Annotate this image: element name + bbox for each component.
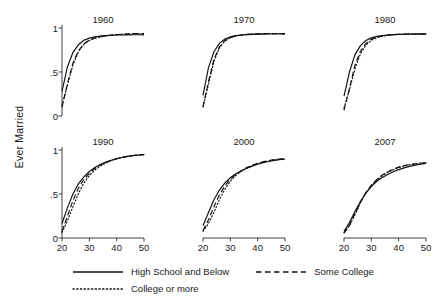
series-line-dashed (344, 163, 426, 233)
x-tick-label: 30 (225, 242, 236, 253)
legend-label-college-or-more: College or more (131, 283, 199, 294)
x-tick-label: 20 (198, 242, 209, 253)
panel-title-2007: 2007 (344, 136, 426, 147)
legend-item-some-college: Some College (255, 266, 374, 277)
y-tick-label: .5 (50, 189, 58, 200)
plot-area-1980 (344, 28, 426, 116)
panel-title-2000: 2000 (203, 136, 285, 147)
figure: Ever Married 19600.511970198019900.51203… (0, 0, 438, 307)
x-tick-label: 30 (366, 242, 377, 253)
plot-area-2007: 20304050 (344, 150, 426, 238)
x-tick-label: 40 (111, 242, 122, 253)
series-line-solid (203, 34, 285, 95)
chart-legend: High School and Below Some College Colle… (0, 266, 438, 294)
series-line-dotted (344, 163, 426, 233)
series-line-dotted (203, 159, 285, 231)
legend-swatch-solid-icon (72, 267, 124, 277)
panel-title-1960: 1960 (62, 14, 144, 25)
x-tick-label: 20 (57, 242, 68, 253)
series-line-dashed (62, 33, 144, 107)
legend-label-some-college: Some College (314, 266, 374, 277)
series-line-dashed (203, 33, 285, 106)
legend-item-high-school-and-below: High School and Below (72, 266, 229, 277)
panel-title-1980: 1980 (344, 14, 426, 25)
series-line-dashed (344, 34, 426, 110)
plot-area-1960: 0.51 (62, 28, 144, 116)
series-line-dotted (203, 34, 285, 108)
plot-area-2000: 20304050 (203, 150, 285, 238)
legend-item-college-or-more: College or more (72, 283, 199, 294)
panel-2000: 200020304050 (203, 150, 285, 238)
y-tick-label: .5 (50, 67, 58, 78)
panel-1960: 19600.51 (62, 28, 144, 116)
series-line-dashed (62, 154, 144, 231)
panel-1970: 1970 (203, 28, 285, 116)
legend-swatch-dashed-icon (255, 267, 307, 277)
panel-title-1970: 1970 (203, 14, 285, 25)
x-tick-label: 50 (139, 242, 150, 253)
series-line-solid (203, 159, 285, 226)
y-tick-label: 1 (53, 23, 58, 34)
legend-row-1: High School and Below Some College (0, 266, 438, 277)
y-axis-title: Ever Married (13, 77, 25, 197)
series-line-dotted (344, 34, 426, 108)
series-line-dotted (62, 34, 144, 106)
x-tick-label: 40 (393, 242, 404, 253)
legend-swatch-dotted-icon (72, 284, 124, 294)
series-line-solid (62, 155, 144, 224)
y-tick-label: 0 (53, 111, 58, 122)
x-tick-label: 50 (421, 242, 432, 253)
panel-1990: 19900.5120304050 (62, 150, 144, 238)
x-tick-label: 50 (280, 242, 291, 253)
panel-2007: 200720304050 (344, 150, 426, 238)
legend-label-high-school-and-below: High School and Below (131, 266, 229, 277)
x-tick-label: 20 (339, 242, 350, 253)
panel-title-1990: 1990 (62, 136, 144, 147)
x-tick-label: 40 (252, 242, 263, 253)
plot-area-1990: 0.5120304050 (62, 150, 144, 238)
x-tick-label: 30 (84, 242, 95, 253)
y-tick-label: 1 (53, 145, 58, 156)
series-line-dotted (62, 155, 144, 233)
legend-row-2: College or more (0, 283, 438, 294)
panel-1980: 1980 (344, 28, 426, 116)
plot-area-1970 (203, 28, 285, 116)
